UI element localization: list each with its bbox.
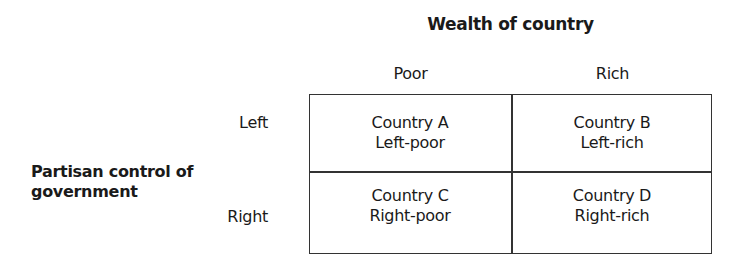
cell-country-name: Country B	[512, 113, 712, 133]
row-axis-title: Partisan control of government	[31, 162, 193, 202]
cell-right-rich: Country D Right-rich	[512, 186, 712, 226]
row-header-left: Left	[188, 113, 268, 132]
row-header-right: Right	[188, 207, 268, 226]
cell-country-desc: Left-rich	[512, 133, 712, 153]
cell-left-poor: Country A Left-poor	[310, 113, 510, 153]
column-header-poor: Poor	[309, 64, 512, 83]
cell-left-rich: Country B Left-rich	[512, 113, 712, 153]
cell-country-desc: Right-rich	[512, 206, 712, 226]
cell-country-desc: Right-poor	[310, 206, 510, 226]
column-axis-title: Wealth of country	[309, 14, 712, 34]
cell-country-name: Country D	[512, 186, 712, 206]
column-header-rich: Rich	[511, 64, 714, 83]
cell-country-name: Country A	[310, 113, 510, 133]
cell-country-desc: Left-poor	[310, 133, 510, 153]
cell-right-poor: Country C Right-poor	[310, 186, 510, 226]
row-axis-title-line2: government	[31, 182, 193, 202]
cell-country-name: Country C	[310, 186, 510, 206]
row-axis-title-line1: Partisan control of	[31, 162, 193, 182]
grid-divider-horizontal	[309, 171, 712, 173]
